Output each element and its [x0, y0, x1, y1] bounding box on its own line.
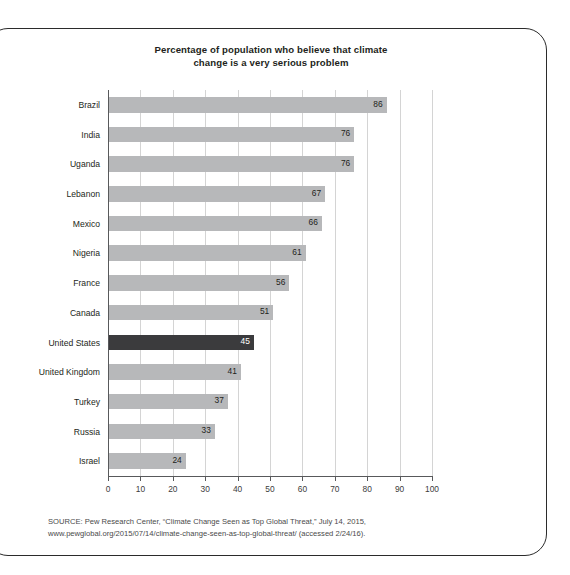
bar-row[interactable]: 33	[108, 417, 432, 447]
bar-row[interactable]: 76	[108, 120, 432, 150]
bar-brazil[interactable]	[108, 97, 387, 113]
x-tick-40	[238, 477, 239, 481]
y-axis-label-russia: Russia	[0, 427, 100, 437]
x-tick-10	[140, 477, 141, 481]
x-tick-50	[270, 477, 271, 481]
bar-row[interactable]: 66	[108, 209, 432, 239]
x-tick-20	[173, 477, 174, 481]
x-tick-70	[335, 477, 336, 481]
source-note: SOURCE: Pew Research Center, “Climate Ch…	[48, 516, 518, 540]
x-tick-100	[432, 477, 433, 481]
y-axis-label-canada: Canada	[0, 308, 100, 318]
bar-value-label: 41	[207, 366, 237, 376]
y-axis-label-india: India	[0, 130, 100, 140]
x-tick-label-100: 100	[412, 484, 452, 494]
y-axis-label-united-kingdom: United Kingdom	[0, 367, 100, 377]
bar-value-label: 66	[288, 217, 318, 227]
bar-value-label: 86	[353, 99, 383, 109]
bar-value-label: 24	[152, 455, 182, 465]
bar-value-label: 45	[220, 336, 250, 346]
y-axis-label-france: France	[0, 278, 100, 288]
y-axis-label-israel: Israel	[0, 456, 100, 466]
y-axis-label-brazil: Brazil	[0, 100, 100, 110]
bar-value-label: 33	[181, 425, 211, 435]
bar-row[interactable]: 61	[108, 238, 432, 268]
x-tick-90	[400, 477, 401, 481]
bar-value-label: 76	[320, 158, 350, 168]
bar-uganda[interactable]	[108, 156, 354, 172]
chart-title: Percentage of population who believe tha…	[108, 44, 434, 69]
bar-row[interactable]: 51	[108, 298, 432, 328]
y-axis-label-nigeria: Nigeria	[0, 248, 100, 258]
bar-value-label: 37	[194, 395, 224, 405]
bar-row[interactable]: 24	[108, 446, 432, 476]
source-line-2: www.pewglobal.org/2015/07/14/climate-cha…	[48, 528, 518, 540]
y-axis-label-mexico: Mexico	[0, 219, 100, 229]
y-axis-label-turkey: Turkey	[0, 397, 100, 407]
bar-row[interactable]: 56	[108, 268, 432, 298]
y-axis-label-united-states: United States	[0, 338, 100, 348]
source-line-1: SOURCE: Pew Research Center, “Climate Ch…	[48, 516, 518, 528]
x-tick-60	[302, 477, 303, 481]
bar-value-label: 56	[255, 277, 285, 287]
bar-value-label: 76	[320, 128, 350, 138]
bar-row[interactable]: 67	[108, 179, 432, 209]
x-tick-80	[367, 477, 368, 481]
bar-row[interactable]: 45	[108, 328, 432, 358]
bar-row[interactable]: 76	[108, 149, 432, 179]
bar-india[interactable]	[108, 127, 354, 143]
bar-value-label: 67	[291, 188, 321, 198]
bar-row[interactable]: 37	[108, 387, 432, 417]
y-axis-line	[108, 90, 109, 477]
x-tick-30	[205, 477, 206, 481]
bar-row[interactable]: 86	[108, 90, 432, 120]
x-tick-0	[108, 477, 109, 481]
chart-title-line-1: Percentage of population who believe tha…	[108, 44, 434, 57]
gridline-100	[432, 90, 433, 476]
chart-title-line-2: change is a very serious problem	[108, 57, 434, 70]
y-axis-label-lebanon: Lebanon	[0, 189, 100, 199]
y-axis-label-uganda: Uganda	[0, 159, 100, 169]
plot-area: 86767667666156514541373324	[108, 90, 432, 476]
bar-value-label: 51	[239, 306, 269, 316]
bar-value-label: 61	[272, 247, 302, 257]
bar-row[interactable]: 41	[108, 357, 432, 387]
